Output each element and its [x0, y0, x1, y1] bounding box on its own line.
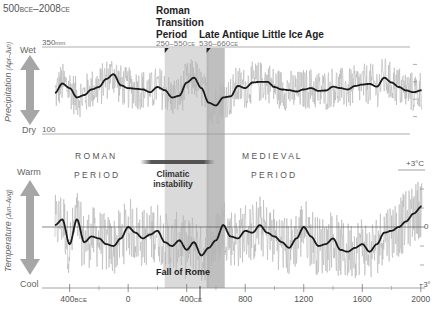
precipitation-raw-line	[55, 59, 422, 124]
fall-of-rome-label: Fall of Rome	[156, 267, 210, 277]
climatic-instability-label: Climatic	[156, 169, 189, 179]
x-axis-labels: 400BCE 0 400CE 800 1200 1600 2000	[60, 294, 430, 304]
roman-period-label-2: P E R I O D	[74, 170, 118, 180]
precip-axis-label: Precipitation(Apr–Jun)	[3, 42, 13, 122]
climate-chart: 500BCE–2008CE Roman Transition Period 25…	[0, 0, 435, 310]
x-tick-label: 1600	[353, 294, 372, 304]
roman-period-label: R O M A N	[75, 151, 115, 161]
warm-label: Warm	[17, 167, 41, 177]
x-tick-label: 0	[126, 294, 131, 304]
period-label-line: Roman	[156, 5, 190, 16]
precip-double-arrow-icon	[20, 55, 40, 125]
cool-label: Cool	[20, 279, 39, 289]
temp-double-arrow-icon	[20, 180, 40, 275]
period-range: 536–660CE	[199, 39, 238, 48]
temp-zero-label: 0	[424, 222, 429, 231]
temperature-raw-line	[55, 182, 422, 281]
roman-transition-label: Roman Transition Period 250–550CE	[156, 5, 204, 48]
x-tick-label: 400BCE	[60, 294, 87, 304]
x-tick-label: 400CE	[179, 294, 202, 304]
climatic-instability-label-2: instability	[153, 179, 193, 189]
temp-max-label: +3°C	[406, 159, 424, 168]
x-tick-label: 2000	[411, 294, 430, 304]
x-tick-label: 1200	[294, 294, 313, 304]
climatic-instability-bar	[140, 160, 215, 164]
precip-min-label: 100	[42, 125, 56, 134]
period-range: 250–550CE	[156, 39, 195, 48]
precip-max-label: 350mm	[42, 38, 65, 47]
temp-axis-label: Temperature(Jun–Aug)	[3, 189, 13, 272]
chart-title: 500BCE–2008CE	[3, 3, 71, 14]
temp-min-label: −3°	[419, 280, 431, 289]
late-antique-label: Late Antique Little Ice Age 536–660CE	[199, 29, 324, 48]
medieval-period-label: M E D I E V A L	[242, 151, 301, 161]
x-tick-label: 800	[238, 294, 252, 304]
medieval-period-label-2: P E R I O D	[251, 170, 295, 180]
dry-label: Dry	[22, 125, 36, 135]
period-label-line: Transition	[156, 17, 204, 28]
wet-label: Wet	[20, 45, 36, 55]
